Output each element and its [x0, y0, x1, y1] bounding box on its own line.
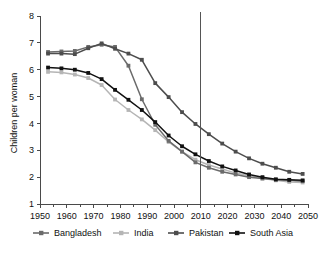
series-marker: [180, 144, 184, 148]
y-axis-title-text: Children per woman: [9, 73, 19, 154]
series-india: [46, 70, 304, 184]
x-tick-label-group: 1950196019701980199020002010202020302040…: [30, 211, 318, 221]
y-tick-label: 7: [29, 38, 34, 48]
x-tick-label: 1980: [110, 211, 130, 221]
series-marker: [207, 166, 211, 170]
legend-label: India: [134, 228, 154, 238]
series-marker: [301, 172, 305, 176]
x-tick-label: 1960: [57, 211, 77, 221]
series-marker: [140, 58, 144, 62]
series-marker: [220, 142, 224, 146]
series-marker: [127, 52, 131, 56]
series-marker: [46, 66, 50, 70]
series-marker: [194, 152, 198, 156]
series-marker: [207, 159, 211, 163]
series-marker: [274, 166, 278, 170]
series-marker: [86, 46, 90, 50]
series-marker: [140, 97, 144, 101]
series-pakistan: [46, 41, 304, 175]
legend-label: Pakistan: [189, 228, 224, 238]
x-tick-label: 2030: [244, 211, 264, 221]
x-tick-label: 1950: [30, 211, 50, 221]
y-tick-label: 1: [29, 199, 34, 209]
y-tick-label: 2: [29, 172, 34, 182]
series-marker: [234, 173, 238, 177]
y-tick-label: 8: [29, 11, 34, 21]
series-marker: [261, 162, 265, 166]
x-tick-label: 2040: [271, 211, 291, 221]
series-bangladesh: [46, 43, 304, 183]
legend-item-bangladesh: Bangladesh: [33, 228, 102, 238]
series-marker: [73, 52, 77, 56]
series-marker: [113, 98, 117, 102]
series-marker: [287, 178, 291, 182]
series-marker: [73, 68, 77, 72]
y-tick-label-group: 12345678: [29, 11, 34, 209]
series-marker: [194, 160, 198, 164]
legend-item-india: India: [113, 228, 154, 238]
legend-swatch-marker: [39, 231, 43, 235]
x-tick-label: 2020: [218, 211, 238, 221]
series-line: [48, 68, 303, 181]
series-marker: [60, 52, 64, 56]
series-line: [48, 72, 303, 183]
series-marker: [73, 73, 77, 77]
series-marker: [127, 98, 131, 102]
legend-item-south-asia: South Asia: [229, 228, 293, 238]
series-marker: [100, 41, 104, 45]
series-marker: [180, 110, 184, 114]
legend-label: South Asia: [250, 228, 293, 238]
series-marker: [127, 108, 131, 112]
series-marker: [220, 165, 224, 169]
series-marker: [287, 170, 291, 174]
series-marker: [127, 64, 131, 68]
legend-swatch-marker: [174, 231, 178, 235]
series-marker: [301, 178, 305, 182]
y-tick-label: 3: [29, 145, 34, 155]
series-marker: [86, 71, 90, 75]
legend-swatch-marker: [235, 231, 239, 235]
series-marker: [73, 49, 77, 53]
x-tick-label: 2000: [164, 211, 184, 221]
series-marker: [140, 118, 144, 122]
y-tick-label: 6: [29, 65, 34, 75]
x-tick-label: 1990: [137, 211, 157, 221]
axes: [40, 16, 308, 204]
x-tick-label: 2010: [191, 211, 211, 221]
series-marker: [153, 81, 157, 85]
series-marker: [60, 66, 64, 70]
series-marker: [247, 156, 251, 160]
series-marker: [153, 120, 157, 124]
series-marker: [86, 76, 90, 80]
series-marker: [113, 47, 117, 51]
series-marker: [180, 150, 184, 154]
y-tick-label: 5: [29, 92, 34, 102]
y-tick-label: 4: [29, 119, 34, 129]
series-line: [48, 43, 303, 174]
line-chart: Children per woman 12345678 195019601970…: [0, 0, 321, 258]
series-marker: [167, 134, 171, 138]
figure-root: Children per woman 12345678 195019601970…: [0, 0, 321, 258]
series-marker: [274, 177, 278, 181]
series-marker: [153, 128, 157, 132]
series-marker: [247, 173, 251, 177]
series-marker: [167, 95, 171, 99]
series-marker: [220, 170, 224, 174]
series-marker: [100, 83, 104, 87]
chart-legend: BangladeshIndiaPakistanSouth Asia: [33, 228, 293, 238]
series-marker: [261, 175, 265, 179]
series-marker: [100, 77, 104, 81]
legend-label: Bangladesh: [54, 228, 102, 238]
series-marker: [207, 132, 211, 136]
series-marker: [234, 169, 238, 173]
series-marker: [140, 108, 144, 112]
series-marker: [194, 122, 198, 126]
series-marker: [46, 70, 50, 74]
data-series-group: [46, 41, 304, 184]
series-marker: [46, 52, 50, 56]
x-tick-marks: [40, 204, 308, 208]
series-line: [48, 45, 303, 181]
series-marker: [60, 71, 64, 75]
x-tick-label: 1970: [84, 211, 104, 221]
y-axis-title: Children per woman: [9, 73, 19, 154]
